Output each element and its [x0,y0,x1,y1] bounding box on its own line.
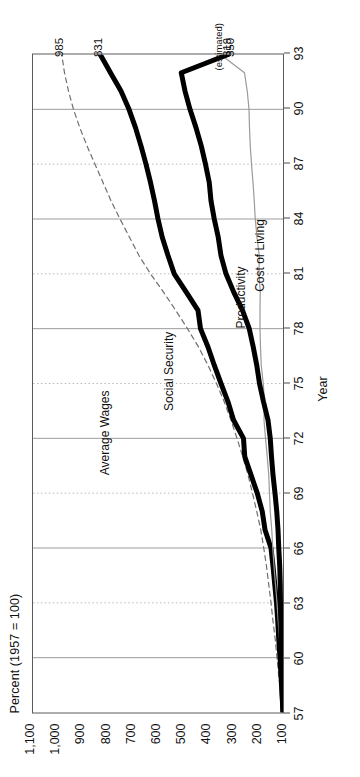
y-tick-label: 1,000 [48,723,62,767]
x-tick-mark [284,327,290,328]
series-label-average-wages: Average Wages [98,390,112,475]
x-tick-label: 69 [292,476,306,510]
end-value-cost-of-living: 319 [221,24,233,70]
x-tick-mark [284,547,290,548]
y-tick-label: 600 [149,723,163,767]
figure: Percent (1957 = 100) 5760636669727578818… [0,0,360,777]
x-tick-mark [284,492,290,493]
series-line-productivity [221,54,284,712]
x-tick-mark [284,602,290,603]
y-tick-label: 200 [250,723,264,767]
y-tick-label: 800 [99,723,113,767]
chart-page: Percent (1957 = 100) 5760636669727578818… [0,0,360,777]
x-tick-label: 90 [292,91,306,125]
x-tick-label: 75 [292,366,306,400]
x-tick-mark [284,217,290,218]
series-label-cost-of-living: Cost of Living [253,219,267,292]
x-tick-label: 72 [292,421,306,455]
rotated-figure-container: Percent (1957 = 100) 5760636669727578818… [0,0,360,777]
x-tick-mark [284,712,290,713]
x-tick-mark [284,382,290,383]
x-tick-label: 57 [292,696,306,730]
y-tick-label: 400 [199,723,213,767]
end-value-social-security: 831 [92,24,104,70]
y-tick-label: 100 [275,723,289,767]
gridlines [33,54,283,657]
plot-svg [33,54,283,712]
x-tick-label: 84 [292,201,306,235]
x-tick-mark [284,657,290,658]
x-tick-label: 66 [292,531,306,565]
x-tick-mark [284,107,290,108]
series-label-productivity: Productivity [234,266,248,328]
x-tick-label: 93 [292,36,306,70]
x-tick-label: 63 [292,586,306,620]
x-tick-label: 81 [292,256,306,290]
y-tick-label: 500 [174,723,188,767]
x-tick-mark [284,52,290,53]
y-tick-label: 900 [73,723,87,767]
y-tick-label: 300 [225,723,239,767]
series-label-social-security: Social Security [162,331,176,410]
x-tick-label: 60 [292,641,306,675]
x-tick-label: 78 [292,311,306,345]
x-tick-mark [284,437,290,438]
chart-title: Percent (1957 = 100) [8,593,22,713]
y-tick-label: 1,100 [23,723,37,767]
x-tick-label: 87 [292,146,306,180]
x-tick-mark [284,272,290,273]
series-line-social-security [100,54,283,712]
end-value-average-wages: 985 [53,24,65,70]
x-tick-mark [284,162,290,163]
y-tick-label: 700 [124,723,138,767]
series-line-cost-of-living [181,54,283,712]
plot-area [32,53,284,713]
x-axis-title: Year [316,0,330,777]
